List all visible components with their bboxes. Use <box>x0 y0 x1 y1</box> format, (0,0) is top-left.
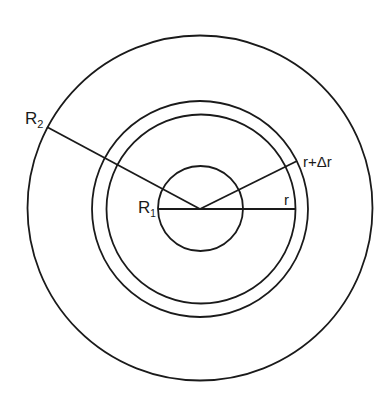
label-R2-sub: 2 <box>37 118 43 130</box>
label-R1-main: R <box>138 198 150 217</box>
concentric-circles-diagram: R2 R1 r+Δr r <box>0 0 391 409</box>
label-r: r <box>284 191 289 208</box>
label-R1-sub: 1 <box>150 208 156 219</box>
label-R1: R1 <box>138 198 156 219</box>
label-r-plus-delta-r: r+Δr <box>303 153 332 170</box>
radius-line-R2 <box>47 127 200 209</box>
label-R2: R2 <box>25 109 43 130</box>
label-R2-main: R <box>25 109 37 128</box>
